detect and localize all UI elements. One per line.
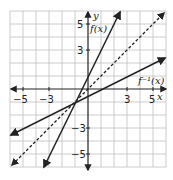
f-inverse-label: f⁻¹(x) [137,75,165,86]
x-tick-5: 5 [149,94,155,105]
y-tick-3: 3 [77,45,83,56]
x-axis-label: x [157,91,163,102]
graph: −5 −3 3 5 5 3 −3 −5 y x f(x) f⁻¹(x) [0,0,173,180]
y-axis-label: y [92,10,99,21]
x-tick-3: 3 [124,94,130,105]
x-tick-neg5: −5 [13,94,28,105]
f-label: f(x) [89,23,107,34]
y-tick-neg5: −5 [71,149,86,160]
x-tick-neg3: −3 [39,94,54,105]
y-tick-neg3: −3 [71,123,86,134]
y-tick-5: 5 [77,19,83,30]
axes [11,12,166,170]
